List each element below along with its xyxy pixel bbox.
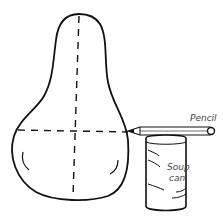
pear-shading-left [22, 152, 29, 170]
pear-outline [12, 14, 128, 200]
soup-label-line1: Soup [167, 162, 190, 172]
soup-label-line2: can [169, 173, 185, 183]
pencil-icon [128, 127, 215, 135]
pencil-label: Pencil [190, 113, 217, 123]
pear-shading-right [110, 160, 118, 174]
vertical-center-line [73, 16, 79, 196]
pear-balance-diagram: Pencil Soup can [0, 0, 223, 220]
horizontal-balance-line [18, 130, 128, 132]
